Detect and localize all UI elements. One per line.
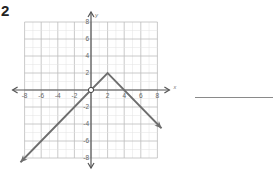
answer-line[interactable] bbox=[195, 97, 273, 98]
svg-text:-8: -8 bbox=[22, 92, 28, 99]
svg-text:y: y bbox=[94, 12, 99, 18]
svg-text:-6: -6 bbox=[83, 137, 89, 144]
svg-text:-2: -2 bbox=[83, 103, 89, 110]
svg-text:6: 6 bbox=[85, 35, 89, 42]
svg-text:8: 8 bbox=[156, 92, 160, 99]
coordinate-graph: xy -8-6-4-224688642-2-4-6-8 bbox=[0, 0, 273, 175]
svg-text:6: 6 bbox=[139, 92, 143, 99]
svg-text:4: 4 bbox=[85, 52, 89, 59]
svg-text:4: 4 bbox=[122, 92, 126, 99]
svg-text:-6: -6 bbox=[38, 92, 44, 99]
svg-text:x: x bbox=[172, 84, 176, 90]
svg-text:-8: -8 bbox=[83, 154, 89, 161]
svg-text:-4: -4 bbox=[83, 120, 89, 127]
svg-text:2: 2 bbox=[106, 92, 110, 99]
svg-text:2: 2 bbox=[85, 69, 89, 76]
svg-text:8: 8 bbox=[85, 18, 89, 25]
svg-text:-2: -2 bbox=[72, 92, 78, 99]
svg-text:-4: -4 bbox=[55, 92, 61, 99]
